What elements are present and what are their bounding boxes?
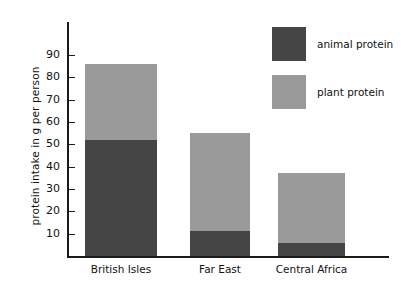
y-tick-mark [69, 77, 75, 78]
category-label: Central Africa [248, 263, 375, 275]
y-tick-label: 30 [30, 183, 60, 194]
bar-central-africa [278, 173, 345, 256]
bar-segment-animal-protein [85, 140, 157, 256]
legend-label-animal-protein: animal protein [317, 38, 393, 50]
y-axis-line [67, 22, 69, 258]
x-axis-line [67, 256, 389, 258]
y-tick-label: 40 [30, 161, 60, 172]
y-tick-label: 80 [30, 71, 60, 82]
y-tick-label-text: 60 [32, 116, 60, 127]
y-tick-label-text: 40 [32, 161, 60, 172]
y-tick-mark [69, 234, 75, 235]
y-tick-label-text: 20 [32, 205, 60, 216]
y-tick-label: 70 [30, 94, 60, 105]
y-tick-label: 60 [30, 116, 60, 127]
bar-british-isles [85, 64, 157, 256]
y-tick-label: 50 [30, 138, 60, 149]
y-tick-mark [69, 211, 75, 212]
y-tick-label-text: 90 [32, 49, 60, 60]
y-tick-label-text: 50 [32, 138, 60, 149]
legend-swatch-animal-protein [272, 27, 306, 61]
y-tick-mark [69, 100, 75, 101]
y-tick-mark [69, 144, 75, 145]
y-tick-mark [69, 55, 75, 56]
bar-segment-animal-protein [278, 243, 345, 256]
legend-swatch-plant-protein [272, 75, 306, 109]
bar-far-east [190, 133, 250, 256]
y-tick-mark [69, 189, 75, 190]
y-tick-label-text: 30 [32, 183, 60, 194]
bar-segment-plant-protein [190, 133, 250, 231]
stacked-bar-chart: protein intake in g per person 908070605… [0, 0, 401, 298]
y-tick-mark [69, 167, 75, 168]
y-tick-label-text: 80 [32, 71, 60, 82]
bar-segment-plant-protein [85, 64, 157, 140]
y-tick-label: 90 [30, 49, 60, 60]
y-tick-label: 10 [30, 228, 60, 239]
y-tick-label-text: 70 [32, 94, 60, 105]
y-tick-label-text: 10 [32, 228, 60, 239]
bar-segment-plant-protein [278, 173, 345, 242]
legend-label-plant-protein: plant protein [317, 86, 384, 98]
y-tick-mark [69, 122, 75, 123]
bar-segment-animal-protein [190, 231, 250, 256]
y-tick-label: 20 [30, 205, 60, 216]
